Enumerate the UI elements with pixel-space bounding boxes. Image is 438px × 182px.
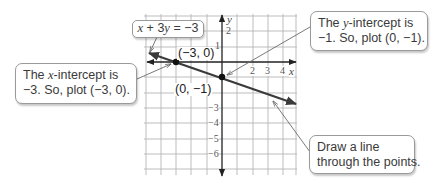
y-tick-minus-3: −3	[208, 103, 219, 113]
y-tick-2: 2	[226, 26, 231, 36]
grid	[144, 14, 297, 175]
y-tick-minus-4: −4	[208, 118, 219, 128]
point-label-y-intercept: (0, −1)	[174, 83, 212, 96]
y-axis-label: y	[227, 14, 232, 25]
pointer-equation	[150, 37, 157, 52]
x-axis-label: x	[289, 66, 294, 77]
callout-draw-line: Draw a line through the points.	[309, 135, 415, 174]
y-tick-minus-6: −6	[208, 149, 219, 159]
x-tick-4: 4	[280, 66, 285, 76]
point-label-x-intercept: (−3, 0)	[177, 47, 215, 60]
y-tick-1: 1	[215, 41, 220, 51]
callout-x-intercept: The x-intercept is −3. So, plot (−3, 0).	[15, 63, 137, 104]
x-tick-3: 3	[265, 66, 270, 76]
point-y-intercept	[219, 74, 225, 80]
callout-y-intercept: The y-intercept is −1. So, plot (0, −1).	[310, 11, 428, 51]
equation-label: x + 3y = −3	[132, 20, 204, 38]
x-tick-2: 2	[250, 66, 255, 76]
y-tick-minus-5: −5	[208, 134, 219, 144]
pointer-draw-line	[273, 101, 310, 152]
